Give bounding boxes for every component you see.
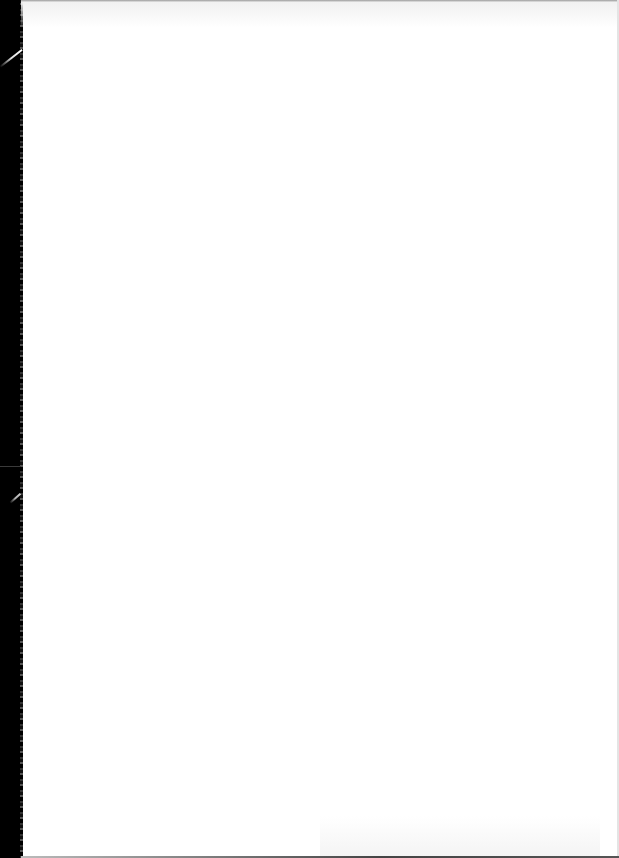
page-bottom-shadow [320, 816, 600, 856]
page-top-shadow [21, 2, 619, 28]
scanned-page [0, 0, 619, 858]
scanner-left-border [0, 0, 21, 858]
scan-noise-line [0, 466, 21, 467]
